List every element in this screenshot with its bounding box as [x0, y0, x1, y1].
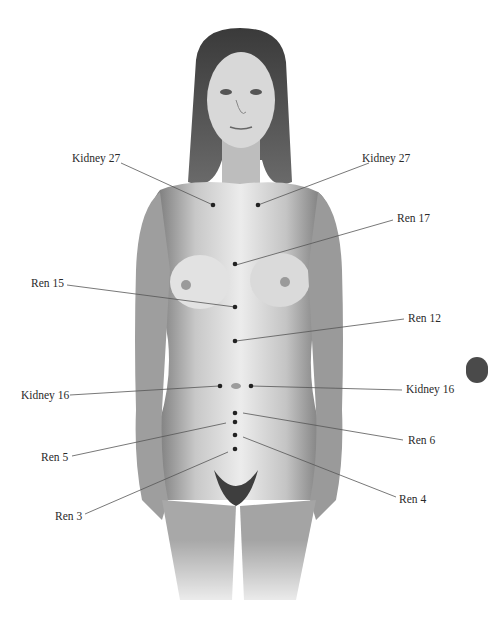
legs [150, 500, 330, 617]
page-tab-marker [466, 357, 488, 383]
acupoint-ren-6 [233, 411, 238, 416]
acupoint-ren-3 [233, 447, 238, 452]
acupoint-ren-15 [233, 305, 238, 310]
label-ren-15: Ren 15 [31, 278, 64, 290]
label-kidney-27-right: Kidney 27 [362, 153, 410, 165]
acupoint-ren-4 [233, 433, 238, 438]
acupoint-kidney-27-left [211, 203, 216, 208]
acupoint-ren-5 [233, 420, 238, 425]
acupoint-kidney-16-right [249, 384, 254, 389]
label-ren-6: Ren 6 [408, 435, 435, 447]
label-ren-5: Ren 5 [41, 452, 68, 464]
acupoint-ren-12 [233, 339, 238, 344]
label-ren-4: Ren 4 [399, 494, 426, 506]
acupoint-ren-17 [233, 262, 238, 267]
label-kidney-16-right: Kidney 16 [406, 384, 454, 396]
face [207, 52, 275, 148]
label-ren-12: Ren 12 [408, 313, 441, 325]
acupoint-kidney-27-right [256, 203, 261, 208]
torso [150, 182, 331, 506]
label-kidney-16-left: Kidney 16 [21, 390, 69, 402]
label-ren-17: Ren 17 [397, 213, 430, 225]
label-ren-3: Ren 3 [55, 511, 82, 523]
label-kidney-27-left: Kidney 27 [72, 153, 120, 165]
acupoint-kidney-16-left [218, 384, 223, 389]
